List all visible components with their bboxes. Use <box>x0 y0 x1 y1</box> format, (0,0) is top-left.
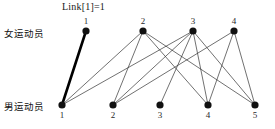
node-number-bottom-3: 3 <box>154 110 166 120</box>
link-annotation-label: Link[1]=1 <box>62 1 105 12</box>
graph-node-bottom-3[interactable] <box>156 101 163 108</box>
node-number-bottom-4: 4 <box>202 110 214 120</box>
graph-node-top-3[interactable] <box>189 27 196 34</box>
node-number-top-3: 3 <box>187 16 199 26</box>
graph-node-bottom-5[interactable] <box>251 101 258 108</box>
row-label-male-athletes: 男运动员 <box>4 99 44 113</box>
graph-node-top-1[interactable] <box>82 27 89 34</box>
node-number-top-2: 2 <box>137 16 149 26</box>
node-number-top-4: 4 <box>228 16 240 26</box>
nodes-layer <box>58 27 258 108</box>
graph-node-top-2[interactable] <box>139 27 146 34</box>
node-number-top-1: 1 <box>80 16 92 26</box>
edges-layer <box>62 31 255 105</box>
graph-edge <box>193 31 208 105</box>
graph-node-bottom-4[interactable] <box>204 101 211 108</box>
graph-node-bottom-1[interactable] <box>58 101 65 108</box>
graph-node-top-4[interactable] <box>230 27 237 34</box>
graph-node-bottom-2[interactable] <box>109 101 116 108</box>
node-number-bottom-5: 5 <box>249 110 261 120</box>
bipartite-graph-diagram: Link[1]=1 女运动员 男运动员 123412345 <box>0 0 275 129</box>
node-number-bottom-1: 1 <box>56 110 68 120</box>
row-label-female-athletes: 女运动员 <box>4 26 44 40</box>
graph-edge <box>193 31 255 105</box>
graph-edge <box>143 31 255 105</box>
graph-edge <box>208 31 234 105</box>
graph-edge <box>234 31 255 105</box>
graph-edge <box>160 31 193 105</box>
node-number-bottom-2: 2 <box>107 110 119 120</box>
